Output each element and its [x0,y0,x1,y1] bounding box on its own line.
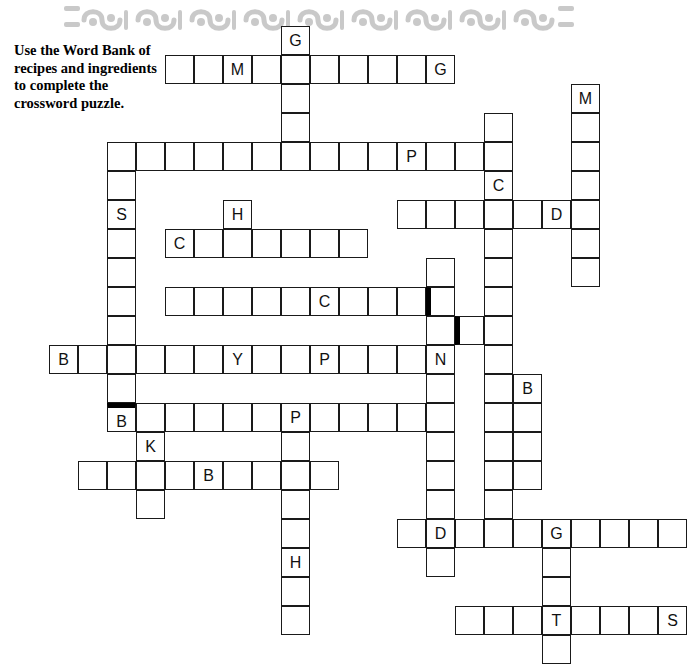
crossword-cell[interactable] [281,606,310,635]
crossword-cell[interactable] [455,200,484,229]
crossword-cell[interactable] [310,142,339,171]
crossword-cell[interactable] [281,461,310,490]
crossword-cell[interactable] [513,200,542,229]
crossword-cell[interactable] [513,403,542,432]
crossword-cell[interactable] [310,229,339,258]
crossword-cell[interactable] [368,142,397,171]
crossword-cell[interactable] [310,55,339,84]
crossword-cell[interactable] [658,519,687,548]
crossword-cell[interactable] [281,577,310,606]
crossword-cell[interactable]: C [165,229,194,258]
crossword-cell[interactable]: P [281,403,310,432]
crossword-cell[interactable] [542,635,571,664]
crossword-cell[interactable] [426,490,455,519]
crossword-cell[interactable] [629,606,658,635]
crossword-cell[interactable] [107,171,136,200]
crossword-cell[interactable] [223,142,252,171]
crossword-cell[interactable] [484,519,513,548]
crossword-cell[interactable] [194,55,223,84]
crossword-cell[interactable] [426,548,455,577]
crossword-cell[interactable] [281,345,310,374]
crossword-cell[interactable] [484,229,513,258]
crossword-cell[interactable] [165,287,194,316]
crossword-cell[interactable] [194,229,223,258]
crossword-cell[interactable]: H [223,200,252,229]
crossword-cell[interactable] [484,461,513,490]
crossword-cell[interactable] [571,229,600,258]
crossword-cell[interactable]: S [107,200,136,229]
crossword-cell[interactable] [484,316,513,345]
crossword-cell[interactable]: N [426,345,455,374]
crossword-cell[interactable]: B [107,403,136,432]
crossword-cell[interactable] [107,345,136,374]
crossword-cell[interactable] [426,200,455,229]
crossword-cell[interactable]: Y [223,345,252,374]
crossword-cell[interactable] [484,287,513,316]
crossword-cell[interactable] [136,142,165,171]
crossword-cell[interactable] [629,519,658,548]
crossword-cell[interactable] [281,519,310,548]
crossword-cell[interactable] [484,432,513,461]
crossword-cell[interactable] [368,55,397,84]
crossword-cell[interactable] [107,142,136,171]
crossword-cell[interactable] [223,287,252,316]
crossword-cell[interactable] [426,287,455,316]
crossword-cell[interactable] [513,461,542,490]
crossword-cell[interactable] [281,229,310,258]
crossword-cell[interactable] [571,113,600,142]
crossword-cell[interactable]: D [542,200,571,229]
crossword-cell[interactable] [368,345,397,374]
crossword-cell[interactable] [484,200,513,229]
crossword-cell[interactable] [78,461,107,490]
crossword-cell[interactable] [165,142,194,171]
crossword-cell[interactable] [107,461,136,490]
crossword-cell[interactable]: M [223,55,252,84]
crossword-cell[interactable] [281,55,310,84]
crossword-cell[interactable] [281,287,310,316]
crossword-cell[interactable]: B [513,374,542,403]
crossword-cell[interactable] [107,316,136,345]
crossword-cell[interactable] [484,403,513,432]
crossword-cell[interactable] [484,345,513,374]
crossword-cell[interactable] [368,287,397,316]
crossword-cell[interactable] [339,403,368,432]
crossword-cell[interactable] [136,461,165,490]
crossword-cell[interactable] [107,287,136,316]
crossword-cell[interactable] [136,403,165,432]
crossword-cell[interactable] [426,316,455,345]
crossword-cell[interactable] [455,519,484,548]
crossword-cell[interactable] [571,142,600,171]
crossword-cell[interactable] [484,374,513,403]
crossword-cell[interactable] [252,345,281,374]
crossword-cell[interactable] [426,461,455,490]
crossword-cell[interactable] [252,142,281,171]
crossword-cell[interactable] [223,229,252,258]
crossword-cell[interactable] [165,345,194,374]
crossword-cell[interactable]: P [397,142,426,171]
crossword-cell[interactable] [600,606,629,635]
crossword-cell[interactable] [194,287,223,316]
crossword-cell[interactable] [455,606,484,635]
crossword-cell[interactable] [107,374,136,403]
crossword-cell[interactable] [571,519,600,548]
crossword-cell[interactable] [397,345,426,374]
crossword-cell[interactable] [513,432,542,461]
crossword-cell[interactable] [600,519,629,548]
crossword-cell[interactable] [397,55,426,84]
crossword-cell[interactable]: C [484,171,513,200]
crossword-cell[interactable]: G [426,55,455,84]
crossword-cell[interactable] [571,200,600,229]
crossword-cell[interactable]: B [194,461,223,490]
crossword-cell[interactable] [194,142,223,171]
crossword-cell[interactable] [397,200,426,229]
crossword-cell[interactable] [252,403,281,432]
crossword-cell[interactable] [281,432,310,461]
crossword-cell[interactable] [310,403,339,432]
crossword-cell[interactable] [136,345,165,374]
crossword-cell[interactable] [397,519,426,548]
crossword-cell[interactable] [310,461,339,490]
crossword-cell[interactable]: H [281,548,310,577]
crossword-cell[interactable] [165,403,194,432]
crossword-cell[interactable] [107,258,136,287]
